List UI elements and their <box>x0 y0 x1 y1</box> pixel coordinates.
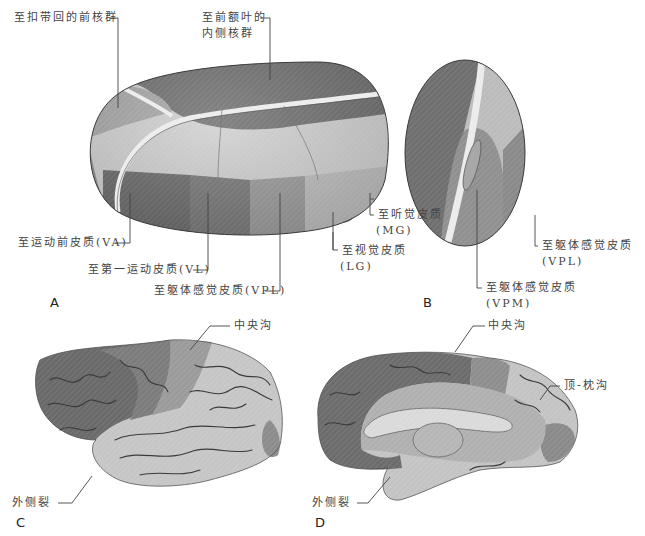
label-vpm-line2: (VPM) <box>486 297 531 311</box>
thalamus-cross-section <box>400 55 530 255</box>
label-auditory-line1: 至听觉皮质 <box>378 208 443 222</box>
label-lateral-fissure-c: 外侧裂 <box>12 496 51 510</box>
label-vpm-line1: 至躯体感觉皮质 <box>486 281 577 295</box>
label-central-sulcus-c: 中央沟 <box>234 319 273 333</box>
panel-letter-c: C <box>16 515 25 530</box>
label-to-cingulate-anterior: 至扣带回的前核群 <box>14 11 118 25</box>
thalamus-lateral-view <box>70 50 400 250</box>
label-central-sulcus-d: 中央沟 <box>488 319 527 333</box>
brain-medial-view <box>310 345 585 505</box>
label-premotor-va: 至运动前皮质(VA) <box>18 236 128 250</box>
label-vpl-b-line1: 至躯体感觉皮质 <box>542 239 633 253</box>
label-lateral-fissure-d: 外侧裂 <box>312 496 351 510</box>
label-vpl-b-line2: (VPL) <box>542 255 583 269</box>
label-auditory-line2: (MG) <box>376 224 413 238</box>
label-visual-line2: (LG) <box>340 260 373 274</box>
label-somatosensory-vpl-a: 至躯体感觉皮质(VPL) <box>154 284 286 298</box>
panel-letter-a: A <box>50 295 59 310</box>
panel-letter-d: D <box>315 515 325 530</box>
label-to-prefrontal-medial-line1: 至前额叶的 <box>202 11 267 25</box>
label-visual-line1: 至视觉皮质 <box>342 244 407 258</box>
label-parieto-occipital-sulcus: 顶-枕沟 <box>564 379 609 393</box>
brain-lateral-view <box>30 330 300 500</box>
panel-letter-b: B <box>423 295 432 310</box>
label-primary-motor-vl: 至第一运动皮质(VL) <box>88 263 211 277</box>
label-to-prefrontal-medial-line2: 内侧核群 <box>202 27 254 41</box>
